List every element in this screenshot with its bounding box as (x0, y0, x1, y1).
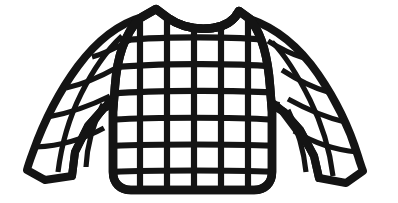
body-grid-h-4 (108, 118, 278, 120)
drawing-canvas (0, 0, 398, 203)
body-grid-h-6 (108, 171, 278, 173)
left-armpit-notch (104, 98, 116, 110)
right-armpit-notch (268, 100, 280, 112)
body-grid-h-3 (108, 91, 278, 94)
body-grid-h-5 (108, 145, 278, 147)
sweater-illustration (0, 0, 398, 203)
